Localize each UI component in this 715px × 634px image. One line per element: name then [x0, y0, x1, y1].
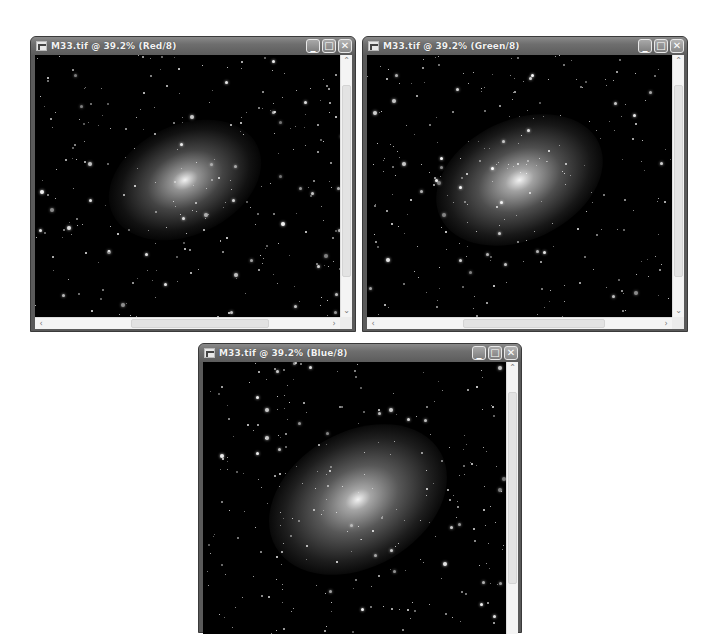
- star: [177, 281, 178, 282]
- star: [329, 112, 330, 113]
- scroll-up-arrow[interactable]: ⌃: [341, 55, 352, 67]
- vertical-scrollbar[interactable]: ⌃: [506, 362, 518, 634]
- star: [486, 563, 487, 564]
- close-button[interactable]: ✕: [504, 346, 518, 360]
- star: [584, 256, 586, 258]
- star: [659, 269, 661, 271]
- star: [374, 205, 376, 207]
- scroll-up-arrow[interactable]: ⌃: [507, 362, 518, 374]
- scroll-right-arrow[interactable]: ›: [660, 318, 672, 329]
- star: [261, 186, 262, 187]
- star: [436, 306, 438, 308]
- star: [36, 237, 37, 238]
- star: [375, 204, 376, 205]
- star: [102, 289, 104, 291]
- star: [293, 379, 294, 380]
- star: [223, 207, 224, 208]
- star: [635, 123, 637, 125]
- star: [110, 226, 111, 227]
- star: [148, 230, 149, 231]
- star: [396, 509, 397, 510]
- scroll-thumb-horizontal[interactable]: [463, 319, 605, 328]
- star: [50, 118, 52, 120]
- star: [367, 76, 368, 77]
- scroll-thumb-vertical[interactable]: [674, 85, 683, 277]
- star: [464, 435, 465, 436]
- document-window-blue[interactable]: M33.tif @ 39.2% (Blue/8) _ □ ✕ ⌃: [198, 343, 522, 633]
- star: [330, 162, 332, 164]
- title-bar[interactable]: M33.tif @ 39.2% (Red/8) _ □ ✕: [31, 37, 355, 55]
- star: [485, 525, 486, 526]
- star: [492, 74, 493, 75]
- star: [633, 114, 636, 117]
- close-button[interactable]: ✕: [338, 39, 352, 53]
- star: [285, 446, 287, 448]
- scroll-up-arrow[interactable]: ⌃: [673, 55, 684, 67]
- image-canvas[interactable]: [35, 55, 341, 317]
- scroll-down-arrow[interactable]: ⌄: [673, 305, 684, 317]
- star: [91, 310, 93, 312]
- star: [265, 408, 269, 412]
- star: [492, 406, 494, 408]
- title-bar[interactable]: M33.tif @ 39.2% (Blue/8) _ □ ✕: [199, 344, 521, 362]
- document-window-green[interactable]: M33.tif @ 39.2% (Green/8) _ □ ✕ ⌃ ⌄ ‹ ›: [362, 36, 688, 332]
- star: [395, 74, 398, 77]
- scroll-thumb-vertical[interactable]: [342, 85, 351, 277]
- star: [80, 105, 83, 108]
- star: [466, 256, 467, 257]
- star: [209, 102, 210, 103]
- scroll-thumb-vertical[interactable]: [508, 392, 517, 584]
- photoshop-document-icon[interactable]: [204, 348, 215, 358]
- maximize-button[interactable]: □: [488, 346, 502, 360]
- star: [67, 226, 71, 230]
- image-canvas[interactable]: [367, 55, 673, 317]
- star: [378, 442, 379, 443]
- star: [280, 525, 281, 526]
- image-canvas[interactable]: [203, 362, 507, 634]
- star: [576, 79, 577, 80]
- star: [40, 96, 41, 97]
- minimize-button[interactable]: _: [472, 346, 486, 360]
- star: [180, 143, 183, 146]
- star: [636, 274, 637, 275]
- vertical-scrollbar[interactable]: ⌃ ⌄: [672, 55, 684, 317]
- star: [276, 630, 277, 631]
- star: [358, 423, 359, 424]
- star: [416, 416, 417, 417]
- star: [212, 90, 213, 91]
- document-window-red[interactable]: M33.tif @ 39.2% (Red/8) _ □ ✕ ⌃ ⌄ ‹ ›: [30, 36, 356, 332]
- star: [42, 180, 43, 181]
- star: [295, 362, 297, 364]
- close-button[interactable]: ✕: [670, 39, 684, 53]
- star: [210, 391, 211, 392]
- star: [278, 243, 279, 244]
- photoshop-document-icon[interactable]: [36, 41, 47, 51]
- horizontal-scrollbar[interactable]: ‹ ›: [35, 317, 340, 329]
- star: [391, 223, 393, 225]
- star: [335, 116, 337, 118]
- maximize-button[interactable]: □: [654, 39, 668, 53]
- star: [62, 294, 65, 297]
- star: [370, 606, 372, 608]
- star: [182, 217, 185, 220]
- star: [430, 434, 431, 435]
- title-bar[interactable]: M33.tif @ 39.2% (Green/8) _ □ ✕: [363, 37, 687, 55]
- star: [255, 527, 256, 528]
- scroll-right-arrow[interactable]: ›: [328, 318, 340, 329]
- minimize-button[interactable]: _: [306, 39, 320, 53]
- horizontal-scrollbar[interactable]: ‹ ›: [367, 317, 672, 329]
- star: [174, 181, 176, 183]
- scroll-down-arrow[interactable]: ⌄: [341, 305, 352, 317]
- scroll-thumb-horizontal[interactable]: [131, 319, 269, 328]
- scroll-left-arrow[interactable]: ‹: [367, 318, 379, 329]
- maximize-button[interactable]: □: [322, 39, 336, 53]
- star: [108, 250, 110, 252]
- star: [606, 85, 607, 86]
- star: [220, 240, 221, 241]
- scroll-left-arrow[interactable]: ‹: [35, 318, 47, 329]
- minimize-button[interactable]: _: [638, 39, 652, 53]
- star: [423, 372, 424, 373]
- star: [429, 522, 430, 523]
- photoshop-document-icon[interactable]: [368, 41, 379, 51]
- vertical-scrollbar[interactable]: ⌃ ⌄: [340, 55, 352, 317]
